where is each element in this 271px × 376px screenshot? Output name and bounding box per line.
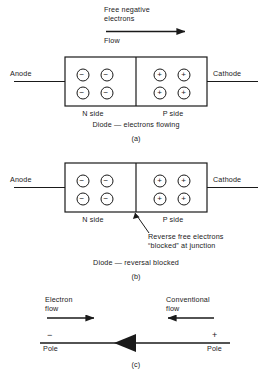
anode-label-b: Anode — [10, 176, 32, 184]
n-side-label-a: N side — [70, 110, 116, 118]
electron-flow-label-line2: flow — [45, 305, 58, 313]
current-direction-marker — [114, 334, 136, 352]
anode-label-a: Anode — [10, 70, 32, 78]
electron-sign: − — [80, 89, 85, 97]
diode-figure: Free negative electrons Flow Anode Catho… — [0, 0, 271, 376]
electron-sign: − — [80, 71, 85, 79]
panel-letter-c: (c) — [116, 361, 156, 369]
hole-sign: + — [157, 177, 162, 185]
p-side-label-a: P side — [150, 110, 196, 118]
p-side-label-b: P side — [150, 216, 196, 224]
hole-sign: + — [157, 89, 162, 97]
positive-pole-label: Pole — [207, 345, 222, 353]
cathode-label-b: Cathode — [213, 176, 241, 184]
flow-label: Flow — [104, 37, 120, 45]
electron-sign: − — [104, 71, 109, 79]
electron-sign: − — [104, 177, 109, 185]
electron-sign: − — [80, 177, 85, 185]
free-negative-electrons-label-line2: electrons — [104, 15, 135, 23]
negative-pole-sign: − — [47, 331, 52, 339]
hole-sign: + — [157, 71, 162, 79]
blocked-annotation-line2: “blocked” at junction — [148, 242, 215, 250]
conventional-flow-label-line2: flow — [166, 305, 179, 313]
negative-pole-label: Pole — [43, 345, 58, 353]
cathode-label-a: Cathode — [213, 70, 241, 78]
n-side-label-b: N side — [70, 216, 116, 224]
panel-letter-b: (b) — [116, 273, 156, 281]
caption-b: Diode — reversal blocked — [56, 259, 216, 267]
hole-sign: + — [181, 89, 186, 97]
electron-sign: − — [104, 89, 109, 97]
electron-sign: − — [104, 195, 109, 203]
figure-linework — [0, 0, 271, 376]
hole-sign: + — [157, 195, 162, 203]
panel-letter-a: (a) — [116, 135, 156, 143]
caption-a: Diode — electrons flowing — [56, 121, 216, 129]
electron-sign: − — [80, 195, 85, 203]
hole-sign: + — [181, 195, 186, 203]
positive-pole-sign: + — [212, 331, 217, 339]
hole-sign: + — [181, 177, 186, 185]
panel-c-linework — [40, 318, 230, 352]
panel-b-linework — [14, 163, 258, 233]
hole-sign: + — [181, 71, 186, 79]
